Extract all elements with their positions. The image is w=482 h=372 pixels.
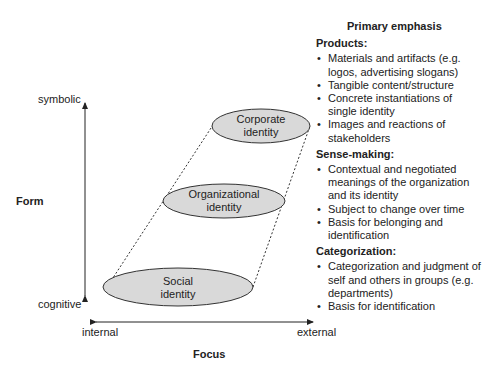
list-item: Images and reactions of stakeholders bbox=[328, 118, 482, 144]
list-item: Subject to change over time bbox=[328, 203, 482, 216]
internal-label: internal bbox=[82, 326, 118, 338]
ellipse-label-line: identity bbox=[103, 288, 253, 301]
list-item: Materials and artifacts (e.g. logos, adv… bbox=[328, 52, 482, 78]
focus-axis-title: Focus bbox=[193, 348, 225, 360]
panel-title: Primary emphasis bbox=[316, 20, 482, 33]
ellipse-label-line: Corporate bbox=[212, 113, 310, 126]
ellipse-label-line: Social bbox=[103, 275, 253, 288]
ellipse-label-line: Organizational bbox=[163, 188, 285, 201]
ellipse-label-line: identity bbox=[212, 126, 310, 139]
ellipse-label-line: identity bbox=[163, 201, 285, 214]
sense-making-list: Contextual and negotiated meanings of th… bbox=[316, 163, 482, 242]
list-item: Contextual and negotiated meanings of th… bbox=[328, 163, 482, 203]
social-identity-label: Social identity bbox=[103, 275, 253, 301]
symbolic-label: symbolic bbox=[38, 93, 81, 105]
list-item: Basis for belonging and identification bbox=[328, 216, 482, 242]
section-title-categorization: Categorization: bbox=[316, 245, 482, 258]
cognitive-label: cognitive bbox=[38, 298, 81, 310]
list-item: Basis for identification bbox=[328, 300, 482, 313]
list-item: Concrete instantiations of single identi… bbox=[328, 92, 482, 118]
external-label: external bbox=[297, 326, 336, 338]
section-title-sense-making: Sense-making: bbox=[316, 148, 482, 161]
corporate-identity-label: Corporate identity bbox=[212, 113, 310, 139]
categorization-list: Categorization and judgment of self and … bbox=[316, 260, 482, 313]
form-axis-title: Form bbox=[16, 195, 44, 207]
list-item: Categorization and judgment of self and … bbox=[328, 260, 482, 300]
organizational-identity-label: Organizational identity bbox=[163, 188, 285, 214]
section-title-products: Products: bbox=[316, 37, 482, 50]
products-list: Materials and artifacts (e.g. logos, adv… bbox=[316, 52, 482, 144]
primary-emphasis-panel: Primary emphasis Products: Materials and… bbox=[316, 20, 482, 316]
list-item: Tangible content/structure bbox=[328, 79, 482, 92]
